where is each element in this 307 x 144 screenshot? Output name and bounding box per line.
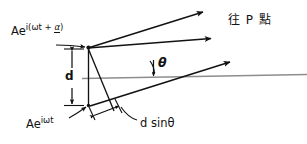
ray-from-top-source bbox=[88, 12, 203, 48]
bottom-source-label: Aeiωt bbox=[26, 119, 54, 131]
path-difference-dimension-line bbox=[94, 106, 119, 116]
top-source-exponent-suffix: ) bbox=[60, 22, 63, 32]
top-source-leader bbox=[56, 45, 85, 47]
bottom-source-point bbox=[87, 104, 90, 107]
separation-label: d bbox=[65, 70, 74, 82]
reference-axis-line bbox=[82, 75, 307, 79]
path-difference-leader bbox=[121, 107, 137, 120]
bottom-source-leader bbox=[69, 107, 86, 118]
path-difference-label: d sinθ bbox=[140, 118, 174, 130]
ray-middle bbox=[88, 39, 211, 49]
bottom-source-base: Ae bbox=[26, 117, 41, 131]
top-source-point bbox=[86, 45, 90, 49]
top-source-exponent: i(ωt + α) bbox=[26, 22, 64, 33]
destination-label: 往 P 點 bbox=[228, 14, 272, 26]
top-source-base: Ae bbox=[11, 24, 26, 38]
angle-label: θ bbox=[158, 57, 167, 70]
top-source-label: Aei(ωt + α) bbox=[11, 26, 63, 38]
wavefront-line bbox=[88, 48, 114, 111]
path-difference-extension-left bbox=[89, 107, 95, 120]
bottom-source-exponent: iωt bbox=[41, 115, 54, 125]
interference-diagram: Aei(ωt + α) Aeiωt d θ d sinθ 往 P 點 bbox=[0, 0, 307, 144]
top-source-exponent-prefix: i(ωt + bbox=[26, 22, 55, 32]
